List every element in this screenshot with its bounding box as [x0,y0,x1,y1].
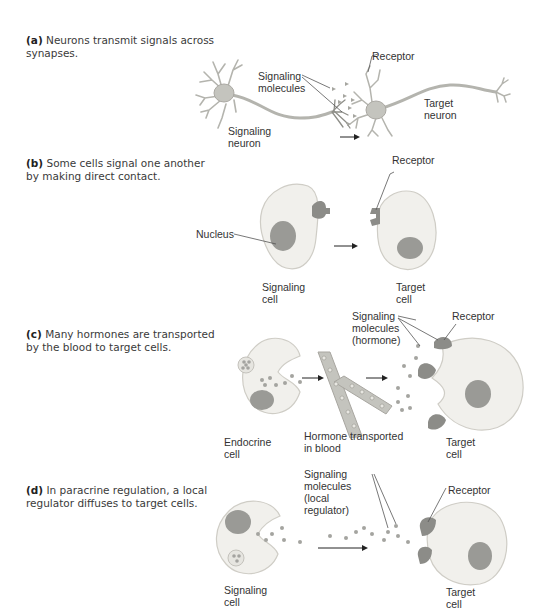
label-signaling-neuron: Signaling neuron [228,125,271,149]
direction-arrow-d [318,545,368,551]
endocrine-nucleus [250,390,274,410]
secretory-vesicle-d [228,550,244,566]
panel-a: (a) Neurons transmit signals across syna… [0,0,533,148]
label-hormone-in-blood: Hormone transported in blood [304,430,403,454]
target-neuron-dendrites [350,66,392,136]
label-target-cell-c: Target cell [446,436,475,460]
signaling-nucleus-d [225,510,251,534]
receptor-b [370,208,380,226]
direction-arrow-b [334,243,358,249]
label-receptor-a: Receptor [372,50,415,62]
label-target-neuron: Target neuron [424,97,457,121]
label-target-cell-d: Target cell [446,586,475,610]
signaling-axon [232,95,332,118]
target-cell-nucleus [397,237,423,259]
direct-contact-diagram [0,148,533,298]
label-receptor-b: Receptor [392,154,435,166]
signaling-cell-d [216,501,280,574]
label-receptor-c: Receptor [452,310,495,322]
local-regulator-molecules [256,524,410,544]
target-neuron-body [366,101,386,119]
label-nucleus: Nucleus [196,228,234,240]
target-nucleus-d [468,542,492,570]
panel-b: (b) Some cells signal one another by mak… [0,148,533,298]
direction-arrow-a [340,134,360,140]
label-signaling-cell-d: Signaling cell [224,584,267,608]
label-signaling-molecules-c: Signaling molecules (hormone) [352,310,400,346]
panel-c: (c) Many hormones are transported by the… [0,298,533,458]
label-receptor-d: Receptor [448,484,491,496]
label-signaling-molecules-a: Signaling molecules [258,70,305,94]
target-axon-terminals [496,78,510,102]
signaling-cell-nucleus [270,221,296,251]
endocrine-diagram [0,298,533,458]
surface-ligand [312,201,330,219]
target-cell-d [427,502,507,585]
blood-vessel [318,352,392,438]
panel-d: (d) In paracrine regulation, a local reg… [0,458,533,614]
label-endocrine-cell: Endocrine cell [224,436,271,460]
label-signaling-molecules-d: Signaling molecules (local regulator) [304,468,351,516]
hormone-molecules-circulating [396,344,420,412]
signaling-neuron-body [214,84,234,102]
target-nucleus-c [465,380,491,408]
